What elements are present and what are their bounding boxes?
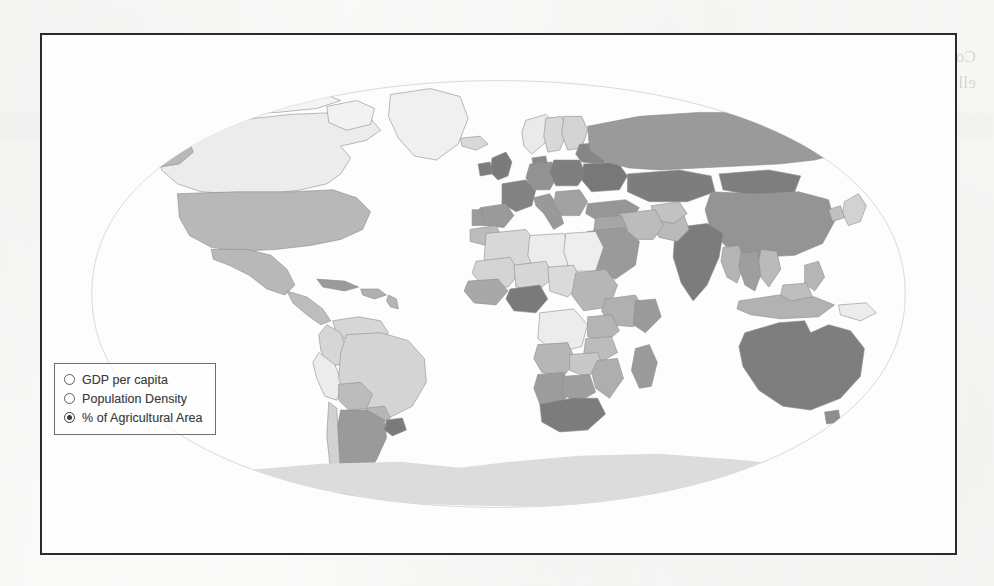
legend-label-gdp-per-capita: GDP per capita xyxy=(82,373,168,387)
region-poland[interactable] xyxy=(550,160,586,186)
legend-label-population-density: Population Density xyxy=(82,392,187,406)
legend-label-agricultural-area: % of Agricultural Area xyxy=(82,411,203,425)
map-stage[interactable]: GDP per capita Population Density % of A… xyxy=(42,35,955,553)
radio-gdp-per-capita[interactable] xyxy=(64,374,75,385)
legend-option-population-density[interactable]: Population Density xyxy=(64,389,203,408)
region-portugal[interactable] xyxy=(472,210,484,226)
world-choropleth-map[interactable] xyxy=(42,35,955,553)
region-ukraine[interactable] xyxy=(582,162,628,192)
legend-option-gdp-per-capita[interactable]: GDP per capita xyxy=(64,370,203,389)
region-egypt[interactable] xyxy=(564,231,604,271)
legend-option-agricultural-area[interactable]: % of Agricultural Area xyxy=(64,408,203,427)
map-variable-legend[interactable]: GDP per capita Population Density % of A… xyxy=(54,363,216,435)
radio-population-density[interactable] xyxy=(64,393,75,404)
radio-agricultural-area[interactable] xyxy=(64,412,75,423)
region-ireland[interactable] xyxy=(478,162,492,176)
map-frame: GDP per capita Population Density % of A… xyxy=(40,33,957,555)
